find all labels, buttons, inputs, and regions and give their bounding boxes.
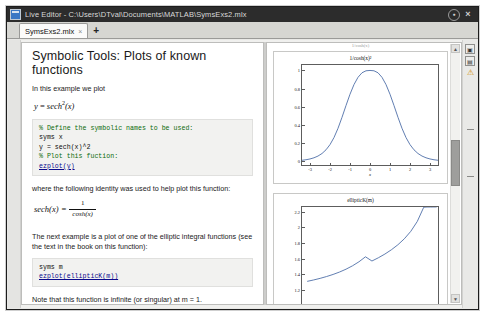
screen: Live Editor - C:\Users\DTval\Documents\M… [0, 0, 485, 316]
window-title: Live Editor - C:\Users\DTval\Documents\M… [25, 10, 247, 19]
ytick-mark [302, 212, 305, 213]
output-right-icon[interactable]: ▤ [465, 56, 475, 66]
figure-2-title: ellipticK(m) [274, 194, 447, 203]
xtick-label: 1 [389, 167, 391, 172]
ytick-label: 1.6 [295, 256, 301, 261]
identity-fraction: 1 cosh(x) [69, 200, 96, 218]
ytick-label: 1.8 [295, 241, 301, 246]
ytick-mark [302, 125, 305, 126]
undock-button[interactable]: ● [448, 9, 460, 21]
tab-close-icon[interactable]: × [78, 28, 82, 35]
xtick-label: 3 [429, 167, 431, 172]
ytick-label: 0 [298, 159, 300, 164]
ytick-mark [302, 107, 305, 108]
xtick-mark [350, 163, 351, 166]
scroll-down-arrow-icon[interactable]: ▼ [451, 294, 460, 303]
document-pane[interactable]: Symbolic Tools: Plots of known functions… [21, 42, 264, 305]
figure-2-curve [302, 207, 438, 305]
code-block-2[interactable]: syms m ezplot(ellipticK(m)) [32, 258, 253, 287]
scroll-up-arrow-icon[interactable]: ▲ [451, 44, 460, 53]
identity-lhs: sech(x) [34, 204, 59, 214]
equation-lhs: y [34, 101, 38, 111]
code-line: % Define the symbolic names to be used: [39, 124, 246, 134]
ytick-label: 1 [298, 68, 300, 73]
ytick-mark [302, 70, 305, 71]
window-titlebar: Live Editor - C:\Users\DTval\Documents\M… [7, 7, 478, 22]
ytick-label: 0.4 [295, 123, 301, 128]
figure-sech-squared[interactable]: 1/cosh(x)² 00.20.40.60.81 -3-2-10123 x [273, 51, 448, 184]
ytick-mark [302, 290, 305, 291]
rail-divider [467, 129, 474, 130]
next-example-text: The next example is a plot of one of the… [32, 232, 253, 251]
equation-sech-squared: y = sech2(x) [34, 100, 253, 111]
new-tab-button[interactable]: + [88, 23, 104, 38]
xtick-mark [330, 163, 331, 166]
ytick-label: 1.2 [295, 288, 301, 293]
output-pane[interactable]: 1/cosh(x) 1/cosh(x)² 00.20.40.60.81 -3-2… [266, 42, 462, 305]
rail-divider [467, 176, 474, 177]
ytick-mark [302, 89, 305, 90]
tab-symsexs2[interactable]: SymsExs2.mlx × [19, 23, 88, 38]
equation-fn: sech [47, 101, 62, 111]
code-line: ezplot(ellipticK(m)) [39, 272, 246, 282]
identity-intro-text: where the following identity was used to… [32, 184, 253, 194]
code-line: ezplot(y) [39, 162, 246, 172]
ytick-mark [302, 259, 305, 260]
xtick-label: 2 [409, 167, 411, 172]
tab-strip: SymsExs2.mlx × + [7, 22, 478, 39]
figure-1-axes: 00.20.40.60.81 -3-2-10123 x [301, 64, 439, 166]
page-title: Symbolic Tools: Plots of known functions [32, 49, 253, 77]
code-block-1[interactable]: % Define the symbolic names to be used: … [32, 119, 253, 177]
warning-icon[interactable]: ⚠ [467, 69, 474, 77]
figure-elliptick[interactable]: ellipticK(m) 11.21.41.61.822.2 -1-0.8-0.… [273, 193, 448, 305]
identity-rel: = [62, 204, 67, 214]
live-editor-window: Live Editor - C:\Users\DTval\Documents\M… [6, 6, 479, 310]
xtick-mark [390, 163, 391, 166]
equation-arg: (x) [65, 101, 74, 111]
ytick-label: 1 [298, 303, 300, 305]
ytick-label: 1.4 [295, 272, 301, 277]
figure-1-title: 1/cosh(x)² [274, 52, 447, 61]
ytick-mark [302, 143, 305, 144]
scrollbar-thumb[interactable] [451, 140, 460, 186]
ytick-label: 0.8 [295, 86, 301, 91]
ytick-label: 0.2 [295, 141, 301, 146]
window-controls: ● × [448, 9, 475, 21]
code-line: syms m [39, 263, 246, 273]
output-ghost-header: 1/cosh(x) [273, 43, 448, 51]
ytick-label: 2 [298, 225, 300, 230]
xtick-label: -2 [328, 167, 332, 172]
tab-label: SymsExs2.mlx [25, 27, 74, 36]
matlab-live-editor-icon [10, 9, 21, 20]
xtick-mark [310, 163, 311, 166]
ytick-mark [302, 161, 305, 162]
code-line: y = sech(x)^2 [39, 143, 246, 153]
close-button[interactable]: × [463, 10, 473, 20]
xtick-mark [370, 163, 371, 166]
ytick-mark [302, 227, 305, 228]
editor-panes: Symbolic Tools: Plots of known functions… [8, 40, 477, 308]
ytick-label: 0.6 [295, 104, 301, 109]
output-inline-icon[interactable]: ▣ [465, 44, 475, 54]
code-line: syms x [39, 133, 246, 143]
left-gutter [8, 40, 21, 308]
ytick-mark [302, 243, 305, 244]
fraction-numerator: 1 [78, 200, 88, 208]
figure-1-curve [302, 65, 438, 165]
output-scrollbar[interactable]: ▲ ▼ [450, 44, 460, 303]
figure-1-xlabel: x [369, 172, 371, 177]
xtick-mark [410, 163, 411, 166]
note-text: Note that this function is infinite (or … [32, 295, 253, 305]
ytick-mark [302, 274, 305, 275]
xtick-label: -3 [308, 167, 312, 172]
xtick-label: -1 [348, 167, 352, 172]
equation-rel: = [40, 101, 45, 111]
fraction-denominator: cosh(x) [69, 211, 96, 219]
intro-text: In this example we plot [32, 84, 253, 94]
ytick-label: 2.2 [295, 209, 301, 214]
figure-2-axes: 11.21.41.61.822.2 -1-0.8-0.6-0.4-0.201 m [301, 206, 439, 305]
code-line: % Plot this fuction: [39, 152, 246, 162]
xtick-mark [430, 163, 431, 166]
right-rail: ▣ ▤ ⚠ [462, 40, 477, 308]
equation-sech-identity: sech(x) = 1 cosh(x) [34, 200, 253, 218]
